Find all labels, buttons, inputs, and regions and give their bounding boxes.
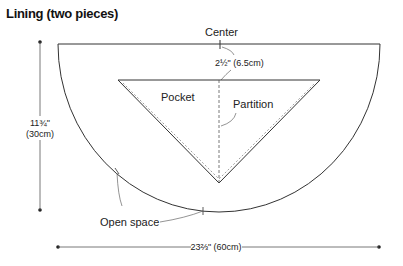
width-label: 23⅔" (60cm) (190, 242, 241, 252)
depth-label: 2½" (6.5cm) (215, 58, 264, 68)
pocket-label: Pocket (161, 91, 195, 103)
open-space-leader-right (160, 211, 203, 222)
depth-leader (222, 47, 234, 55)
depth-leader-bottom (221, 70, 231, 80)
open-space-label: Open space (100, 216, 159, 228)
center-label: Center (205, 26, 238, 38)
lining-diagram: Center 2½" (6.5cm) Pocket Partition Open… (0, 0, 403, 266)
partition-label: Partition (233, 98, 273, 110)
height-label-cm: (30cm) (26, 129, 54, 139)
partition-leader (221, 113, 236, 126)
height-label-in: 11¾" (30, 118, 50, 128)
